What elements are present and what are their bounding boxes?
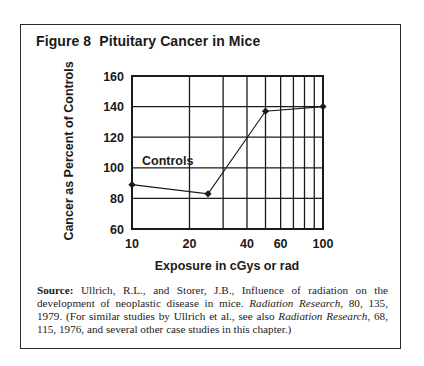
data-point-marker bbox=[204, 190, 211, 197]
y-tick-label: 100 bbox=[103, 161, 124, 175]
y-tick-label: 120 bbox=[103, 131, 124, 145]
chart-annotations: Controls bbox=[142, 154, 193, 168]
x-axis-label: Exposure in cGys or rad bbox=[155, 259, 300, 273]
y-tick-label: 60 bbox=[110, 223, 124, 237]
plot-area bbox=[132, 76, 323, 229]
source-citation: Source: Ullrich, R.L., and Storer, J.B.,… bbox=[37, 284, 388, 336]
y-tick-label: 80 bbox=[110, 192, 124, 206]
x-tick-label: 60 bbox=[274, 237, 288, 251]
x-tick-label: 20 bbox=[183, 237, 197, 251]
data-point-marker bbox=[262, 108, 269, 115]
journal-name-2: Radiation Research bbox=[278, 310, 367, 322]
source-label: Source: bbox=[37, 284, 73, 296]
data-point-marker bbox=[128, 181, 135, 188]
y-tick-label: 160 bbox=[103, 70, 124, 84]
data-series bbox=[128, 103, 326, 197]
chart-grid bbox=[132, 76, 323, 229]
x-tick-label: 100 bbox=[313, 237, 334, 251]
controls-annotation: Controls bbox=[142, 154, 193, 168]
series-line bbox=[132, 107, 323, 194]
data-point-marker bbox=[319, 103, 326, 110]
y-axis-ticks: 6080100120140160 bbox=[103, 70, 124, 237]
y-tick-label: 140 bbox=[103, 100, 124, 114]
x-axis-ticks: 10204060100 bbox=[125, 237, 333, 251]
x-tick-label: 10 bbox=[125, 237, 139, 251]
journal-name-1: Radiation Research bbox=[249, 297, 340, 309]
x-tick-label: 40 bbox=[240, 237, 254, 251]
y-axis-label: Cancer as Percent of Controls bbox=[62, 61, 76, 240]
plot-border bbox=[132, 76, 323, 229]
